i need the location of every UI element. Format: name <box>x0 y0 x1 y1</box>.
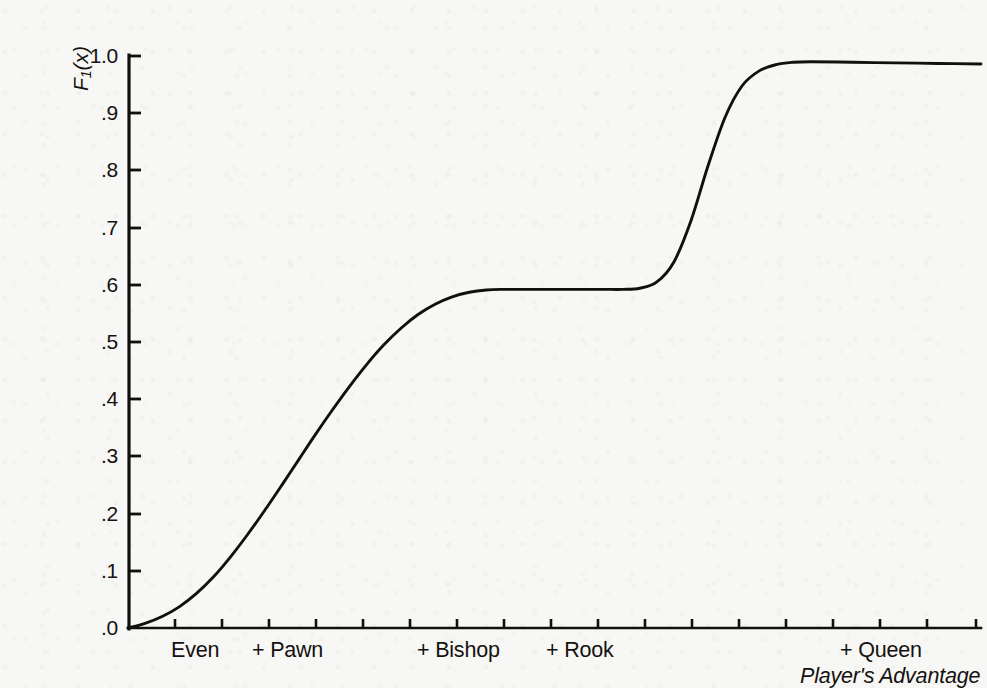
y-tick-label: .9 <box>66 101 118 125</box>
y-tick-label: 1.0 <box>66 44 118 68</box>
y-tick-label: .7 <box>66 216 118 240</box>
x-tick-label-even: Even <box>171 638 219 663</box>
y-tick-label: .2 <box>66 502 118 526</box>
data-series-curve <box>128 62 981 628</box>
x-tick-label-pawn: + Pawn <box>252 638 323 663</box>
x-axis-title: Player's Advantage <box>800 664 980 688</box>
f1-of-x-player-advantage-chart: F1(x) <box>40 16 924 672</box>
plot-area <box>40 16 987 688</box>
y-tick-label: .0 <box>66 616 118 640</box>
y-tick-label: .5 <box>66 330 118 354</box>
y-tick-label: .6 <box>66 273 118 297</box>
y-tick-label: .1 <box>66 559 118 583</box>
y-tick-label: .4 <box>66 387 118 411</box>
y-tick-label: .8 <box>66 158 118 182</box>
x-tick-label-bishop: + Bishop <box>417 638 500 663</box>
y-axis-tick-marks <box>129 56 141 571</box>
x-tick-label-rook: + Rook <box>546 638 614 663</box>
x-tick-label-queen: + Queen <box>840 638 922 663</box>
x-axis-tick-marks <box>175 619 976 628</box>
y-tick-label: .3 <box>66 444 118 468</box>
